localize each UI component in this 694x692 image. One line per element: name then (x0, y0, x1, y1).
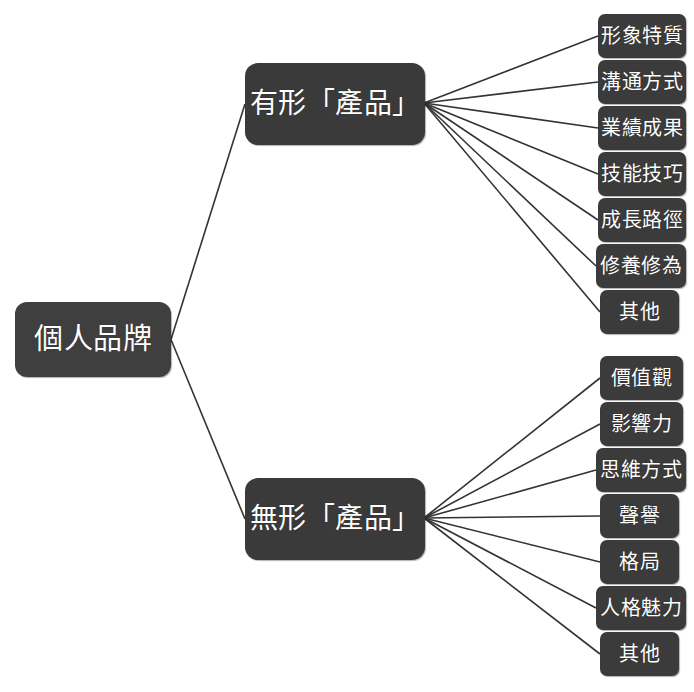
edge-branch-1-to-leaf-2 (424, 470, 596, 518)
edge-branch-1-to-leaf-1 (424, 424, 600, 518)
branch-node-1[interactable]: 無形「產品」 (245, 478, 425, 560)
edge-branch-1-to-leaf-4 (424, 518, 600, 562)
edge-root-to-branch-0 (171, 104, 245, 340)
leaf-node-0-2-label: 業績成果 (601, 118, 683, 138)
leaf-node-0-4-label: 成長路徑 (601, 210, 683, 230)
edge-branch-0-to-leaf-6 (424, 103, 600, 312)
leaf-node-1-1[interactable]: 影響力 (600, 402, 683, 446)
leaf-node-0-5-label: 修養修為 (600, 256, 682, 276)
edge-branch-1-to-leaf-3 (424, 516, 600, 518)
edge-branch-0-to-leaf-4 (424, 103, 598, 220)
branch-node-1-label: 無形「產品」 (250, 505, 421, 533)
edge-branch-0-to-leaf-3 (424, 103, 598, 174)
edge-branch-0-to-leaf-1 (424, 82, 598, 103)
leaf-node-0-5[interactable]: 修養修為 (596, 244, 686, 288)
leaf-node-1-2-label: 思維方式 (600, 460, 682, 480)
edge-branch-0-to-leaf-5 (424, 103, 596, 266)
root-node[interactable]: 個人品牌 (15, 302, 171, 377)
edge-branch-1-to-leaf-5 (424, 518, 596, 608)
leaf-node-1-5[interactable]: 人格魅力 (596, 586, 686, 630)
leaf-node-1-6-label: 其他 (619, 644, 660, 664)
edge-branch-1-to-leaf-0 (424, 378, 600, 518)
leaf-node-0-1-label: 溝通方式 (601, 72, 683, 92)
leaf-node-0-3[interactable]: 技能技巧 (598, 152, 686, 196)
leaf-node-1-1-label: 影響力 (611, 414, 673, 434)
leaf-node-0-6[interactable]: 其他 (600, 290, 679, 334)
edge-root-to-branch-1 (171, 340, 245, 520)
leaf-node-0-0-label: 形象特質 (601, 26, 683, 46)
leaf-node-0-2[interactable]: 業績成果 (598, 106, 686, 150)
leaf-node-0-1[interactable]: 溝通方式 (598, 60, 686, 104)
edge-branch-0-to-leaf-2 (424, 103, 598, 128)
leaf-node-0-4[interactable]: 成長路徑 (598, 198, 686, 242)
leaf-node-1-3-label: 聲譽 (619, 506, 660, 526)
leaf-node-1-4-label: 格局 (619, 552, 660, 572)
leaf-node-1-0[interactable]: 價值觀 (600, 356, 683, 400)
leaf-node-0-3-label: 技能技巧 (601, 164, 683, 184)
leaf-node-1-3[interactable]: 聲譽 (600, 494, 679, 538)
leaf-node-1-0-label: 價值觀 (611, 368, 673, 388)
leaf-node-0-6-label: 其他 (619, 302, 660, 322)
root-node-label: 個人品牌 (34, 325, 152, 354)
branch-node-0[interactable]: 有形「產品」 (245, 63, 425, 145)
edge-branch-1-to-leaf-6 (424, 518, 600, 654)
branch-node-0-label: 有形「產品」 (250, 90, 421, 118)
leaf-node-1-6[interactable]: 其他 (600, 632, 679, 676)
leaf-node-0-0[interactable]: 形象特質 (598, 14, 686, 58)
leaf-node-1-2[interactable]: 思維方式 (596, 448, 686, 492)
leaf-node-1-4[interactable]: 格局 (600, 540, 679, 584)
leaf-node-1-5-label: 人格魅力 (600, 598, 682, 618)
mind-map-canvas: 個人品牌有形「產品」形象特質溝通方式業績成果技能技巧成長路徑修養修為其他無形「產… (0, 0, 694, 692)
edge-branch-0-to-leaf-0 (424, 36, 598, 103)
